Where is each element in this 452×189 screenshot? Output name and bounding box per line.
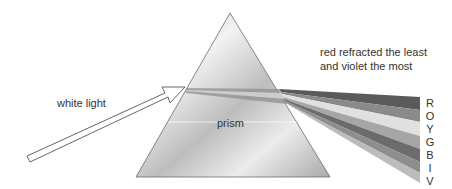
prism-label: prism bbox=[217, 117, 244, 130]
spectrum-letter-r: R bbox=[424, 97, 436, 109]
spectrum-letter-i: I bbox=[424, 162, 436, 174]
spectrum-letter-g: G bbox=[424, 136, 436, 148]
spectrum-letter-o: O bbox=[424, 110, 436, 122]
white-light-label: white light bbox=[57, 97, 106, 110]
caption-line-1: red refracted the least bbox=[320, 46, 427, 59]
spectrum-letter-v: V bbox=[424, 175, 436, 187]
spectrum-letter-b: B bbox=[424, 149, 436, 161]
spectrum-letter-y: Y bbox=[424, 123, 436, 135]
prism-diagram bbox=[0, 0, 452, 189]
caption-line-2: and violet the most bbox=[320, 60, 412, 73]
